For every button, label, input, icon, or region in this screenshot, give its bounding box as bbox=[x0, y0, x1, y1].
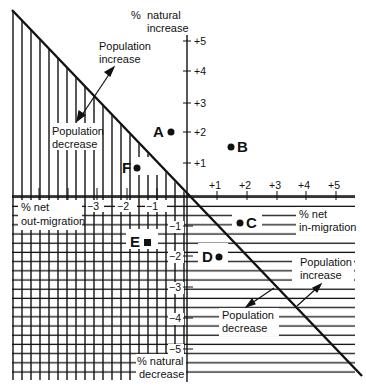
x-tick-plus-2: +2 bbox=[239, 179, 251, 191]
x-tick-plus-5: +5 bbox=[328, 179, 340, 191]
svg-text:decrease: decrease bbox=[222, 322, 267, 334]
x-tick-plus-3: +3 bbox=[269, 179, 281, 191]
y-tick-plus-4: +4 bbox=[194, 65, 206, 77]
population-change-diagram: +1 +2 +3 +4 +5 −1 −2 −3 −4 −5 +1 +2 +3 +… bbox=[0, 0, 366, 390]
svg-text:E: E bbox=[130, 233, 140, 250]
svg-text:increase: increase bbox=[99, 53, 141, 65]
upper-increase-annotation: Population increase bbox=[99, 40, 151, 65]
y-tick-plus-1: +1 bbox=[194, 157, 206, 169]
svg-text:Population: Population bbox=[300, 256, 352, 268]
svg-text:C: C bbox=[246, 214, 257, 231]
y-tick-minus-1: −1 bbox=[169, 220, 181, 232]
svg-text:% net: % net bbox=[299, 208, 327, 220]
svg-text:out-migration: out-migration bbox=[21, 215, 85, 227]
svg-text:% natural: % natural bbox=[137, 355, 183, 367]
x-tick-plus-1: +1 bbox=[209, 179, 221, 191]
svg-text:A: A bbox=[153, 123, 164, 140]
svg-text:%: % bbox=[131, 9, 141, 21]
svg-text:% net: % net bbox=[21, 201, 49, 213]
y-tick-minus-3: −3 bbox=[169, 281, 181, 293]
x-tick-minus-1: −1 bbox=[146, 200, 158, 212]
y-top-label: % natural increase bbox=[131, 9, 189, 34]
y-tick-minus-4: −4 bbox=[169, 312, 181, 324]
svg-text:D: D bbox=[202, 248, 213, 265]
y-tick-minus-2: −2 bbox=[169, 250, 181, 262]
svg-text:increase: increase bbox=[147, 22, 189, 34]
svg-text:decrease: decrease bbox=[139, 368, 184, 380]
data-point-a: A bbox=[153, 123, 175, 140]
x-tick-minus-2: −2 bbox=[117, 200, 129, 212]
y-bottom-label: % natural decrease bbox=[137, 355, 184, 380]
x-tick-minus-3: −3 bbox=[87, 200, 99, 212]
y-tick-minus-5: −5 bbox=[169, 343, 181, 355]
svg-text:B: B bbox=[237, 138, 248, 155]
svg-text:decrease: decrease bbox=[52, 138, 97, 150]
y-tick-plus-3: +3 bbox=[194, 97, 206, 109]
x-tick-plus-4: +4 bbox=[298, 179, 310, 191]
svg-text:natural: natural bbox=[147, 9, 181, 21]
data-point-b: B bbox=[228, 138, 249, 155]
svg-text:in-migration: in-migration bbox=[299, 221, 356, 233]
upper-decrease-annotation: Population decrease bbox=[50, 123, 104, 150]
svg-text:F: F bbox=[122, 159, 131, 176]
svg-text:Population: Population bbox=[99, 40, 151, 52]
svg-text:Population: Population bbox=[52, 125, 104, 137]
y-tick-plus-2: +2 bbox=[194, 126, 206, 138]
svg-text:increase: increase bbox=[300, 269, 342, 281]
y-tick-plus-5: +5 bbox=[194, 35, 206, 47]
lower-decrease-annotation: Population decrease bbox=[222, 309, 274, 334]
svg-text:Population: Population bbox=[222, 309, 274, 321]
